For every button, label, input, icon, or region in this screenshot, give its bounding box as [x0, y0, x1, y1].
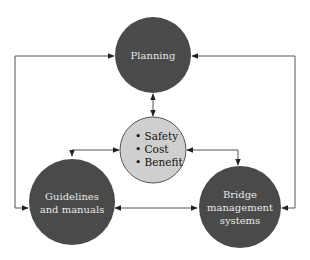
node-bridge-label-line2: management	[207, 202, 273, 213]
node-criteria: • Safety • Cost • Benefit	[120, 117, 186, 183]
criteria-item-benefit: • Benefit	[135, 156, 183, 168]
node-bridge-label-line3: systems	[220, 215, 260, 226]
diagram-canvas: Planning • Safety • Cost • Benefit Guide…	[0, 0, 310, 260]
edge-center-guidelines	[72, 150, 119, 156]
node-bridge-label-line1: Bridge	[223, 189, 257, 200]
node-guidelines: Guidelines and manuals	[29, 159, 115, 245]
node-bridge-management: Bridge management systems	[199, 166, 281, 248]
node-planning-label: Planning	[131, 50, 176, 61]
criteria-item-safety: • Safety	[135, 130, 178, 142]
node-planning: Planning	[115, 17, 191, 93]
criteria-item-cost: • Cost	[135, 143, 169, 155]
node-guidelines-label-line2: and manuals	[40, 204, 105, 215]
edge-center-bridge	[187, 150, 238, 165]
node-guidelines-label-line1: Guidelines	[45, 191, 99, 202]
